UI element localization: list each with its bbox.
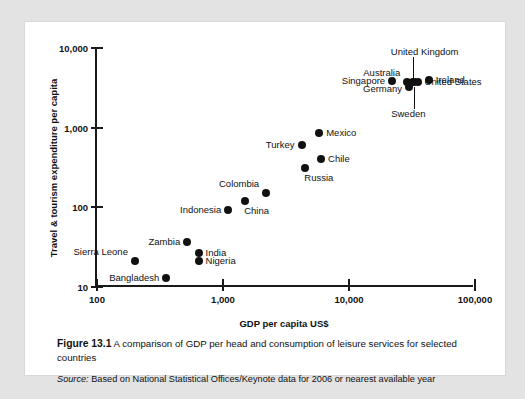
label-leader-line [413, 57, 414, 79]
data-point-label: Sierra Leone [74, 248, 128, 258]
data-point-label: Ireland [436, 75, 465, 85]
data-point [224, 206, 232, 214]
data-point [301, 164, 309, 172]
x-tick-label: 100,000 [458, 294, 492, 305]
data-point [131, 257, 139, 265]
data-point-label: Bangladesh [109, 273, 159, 283]
y-tick [91, 206, 103, 208]
y-tick-label: 100 [72, 202, 88, 213]
data-point [262, 189, 270, 197]
source-text: Based on National Statistical Offices/Ke… [91, 374, 435, 384]
y-tick-label: 10 [77, 282, 88, 293]
x-tick-label: 100 [89, 294, 105, 305]
figure-caption: Figure 13.1 A comparison of GDP per head… [57, 337, 485, 364]
source-label: Source: [57, 374, 89, 384]
data-point [183, 238, 191, 246]
x-tick [348, 279, 350, 291]
data-point [315, 129, 323, 137]
plot-area: BangladeshSierra LeoneNigeriaIndiaZambia… [95, 48, 473, 287]
data-point-label: United Kingdom [391, 47, 459, 57]
data-point-label: Indonesia [180, 205, 221, 215]
data-point-label: Colombia [219, 180, 259, 190]
y-axis-title-wrapper: Travel & tourism expenditure per capita [53, 48, 54, 287]
data-point-label: Mexico [326, 129, 356, 139]
x-tick [96, 279, 98, 291]
data-point [317, 155, 325, 163]
data-point-label: Turkey [266, 141, 295, 151]
y-axis-title: Travel & tourism expenditure per capita [48, 78, 59, 256]
data-point [195, 249, 203, 257]
figure-source: Source: Based on National Statistical Of… [57, 374, 485, 386]
y-tick [91, 127, 103, 129]
x-tick-label: 1,000 [211, 294, 235, 305]
data-point-label: Germany [363, 85, 402, 95]
data-point [195, 257, 203, 265]
x-axis-title: GDP per capita US$ [95, 318, 473, 329]
data-point-label: Sweden [391, 110, 425, 120]
figure-card: Travel & tourism expenditure per capita … [25, 22, 505, 375]
y-tick-label: 10,000 [59, 43, 88, 54]
data-point-label: Australia [363, 69, 400, 79]
label-leader-line [414, 87, 415, 109]
data-point-label: Chile [328, 155, 350, 165]
x-tick [222, 279, 224, 291]
x-tick [474, 279, 476, 291]
x-tick-label: 10,000 [334, 294, 363, 305]
data-point [241, 197, 249, 205]
data-point [425, 76, 433, 84]
data-point-label: Nigeria [206, 257, 236, 267]
data-point [162, 274, 170, 282]
data-point [414, 78, 422, 86]
data-point-label: China [244, 206, 269, 216]
scatter-chart: Travel & tourism expenditure per capita … [25, 22, 505, 322]
data-point-label: Russia [304, 173, 333, 183]
figure-number: Figure 13.1 [57, 338, 111, 349]
data-point-label: India [206, 248, 227, 258]
y-tick [91, 47, 103, 49]
data-point-label: Zambia [149, 237, 181, 247]
figure-caption-text: A comparison of GDP per head and consump… [57, 338, 457, 363]
y-tick-label: 1,000 [64, 122, 88, 133]
data-point [298, 141, 306, 149]
